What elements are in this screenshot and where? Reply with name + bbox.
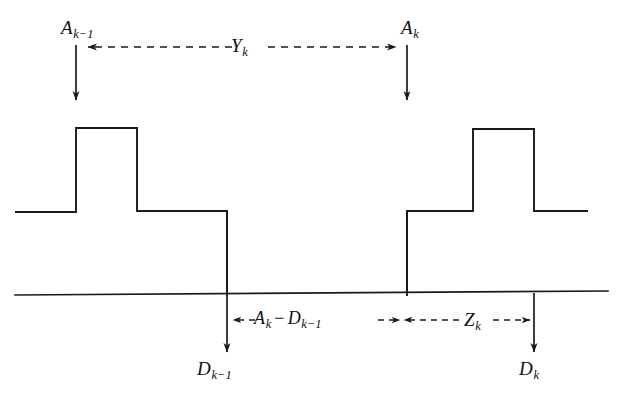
- label-arrival-curr: Ak: [401, 18, 419, 41]
- label-service-base: Z: [464, 309, 475, 330]
- label-wait-base-a: A: [254, 308, 265, 328]
- label-arrival-prev: Ak−1: [61, 18, 94, 41]
- label-interarrival-sub: k: [242, 45, 248, 59]
- label-interarrival: Yk: [231, 36, 248, 59]
- label-arrival-prev-base: A: [61, 17, 73, 38]
- label-interarrival-base: Y: [231, 35, 242, 56]
- label-departure-prev: Dk−1: [197, 359, 232, 382]
- label-departure-curr: Dk: [519, 359, 539, 382]
- label-wait-operator: −: [271, 308, 287, 328]
- time-axis-baseline: [15, 291, 608, 295]
- label-service-sub: k: [475, 319, 481, 333]
- label-arrival-prev-sub: k−1: [73, 27, 94, 41]
- label-departure-curr-sub: k: [533, 368, 539, 382]
- label-wait-time: Ak−Dk−1: [254, 309, 322, 331]
- label-arrival-curr-sub: k: [413, 27, 419, 41]
- label-arrival-curr-base: A: [401, 17, 413, 38]
- label-departure-curr-base: D: [519, 358, 533, 379]
- label-wait-sub-b: k−1: [301, 317, 322, 331]
- step-trajectory-path: [15, 128, 588, 294]
- diagram-svg: [0, 0, 625, 400]
- label-service-time: Zk: [464, 310, 481, 333]
- figure-canvas: Ak−1 Ak Yk Ak−Dk−1 Zk Dk−1 Dk: [0, 0, 625, 400]
- label-departure-prev-sub: k−1: [211, 368, 232, 382]
- label-departure-prev-base: D: [197, 358, 211, 379]
- label-wait-base-b: D: [288, 308, 301, 328]
